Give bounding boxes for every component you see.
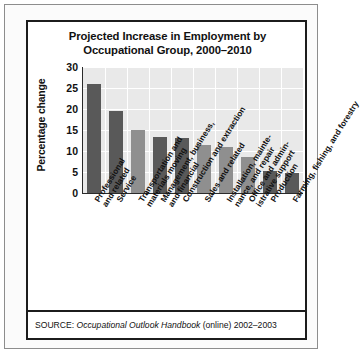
figure-outer-frame: Projected Increase in Employment by Occu… bbox=[4, 4, 318, 349]
bar bbox=[87, 84, 101, 193]
y-axis-tick-10: 10 bbox=[48, 145, 78, 157]
source-title: Occupational Outlook Handbook bbox=[77, 320, 201, 330]
source-prefix: SOURCE: bbox=[35, 320, 74, 330]
source-note: SOURCE: Occupational Outlook Handbook (o… bbox=[35, 320, 300, 331]
y-axis-tick-20: 20 bbox=[48, 103, 78, 115]
chart-title: Projected Increase in Employment by Occu… bbox=[36, 29, 299, 57]
plot-area-wrapper: Percentage change 051015202530 Professio… bbox=[28, 67, 305, 212]
y-axis-tick-5: 5 bbox=[48, 166, 78, 178]
y-axis-tick-0: 0 bbox=[48, 187, 78, 199]
y-axis-tick-30: 30 bbox=[48, 61, 78, 73]
source-suffix: (online) 2002–2003 bbox=[203, 320, 277, 330]
y-axis-ticks: 051015202530 bbox=[48, 67, 78, 193]
y-axis-tick-15: 15 bbox=[48, 124, 78, 136]
y-axis-label: Percentage change bbox=[35, 70, 47, 180]
figure-panel: Projected Increase in Employment by Occu… bbox=[26, 20, 307, 340]
source-divider bbox=[28, 310, 305, 312]
y-axis-tick-25: 25 bbox=[48, 82, 78, 94]
